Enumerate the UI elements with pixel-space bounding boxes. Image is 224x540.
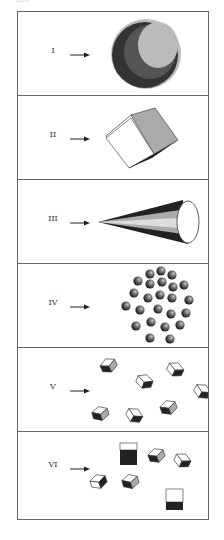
small-sphere: [167, 270, 176, 279]
small-sphere: [135, 305, 144, 314]
small-sphere: [155, 290, 164, 299]
cube: [192, 381, 208, 401]
panel-1: I: [18, 12, 208, 96]
panel-5: V: [18, 348, 208, 432]
panel-2: II: [18, 96, 208, 180]
panel-6: VI: [18, 432, 208, 521]
cube: [134, 372, 154, 391]
small-sphere: [166, 309, 175, 318]
small-sphere: [133, 276, 142, 285]
square-bottom-dark: [120, 450, 137, 465]
small-sphere: [146, 317, 155, 326]
cube: [91, 405, 110, 423]
page-number: 200: [16, 0, 29, 4]
small-sphere: [179, 280, 188, 289]
cube: [165, 360, 186, 380]
cube: [124, 405, 145, 425]
cube: [172, 451, 193, 471]
small-sphere: [145, 333, 154, 342]
small-sphere: [121, 301, 130, 310]
scattered-cubes-squares-figure: [18, 432, 208, 521]
cube: [147, 446, 167, 465]
small-sphere: [145, 279, 154, 288]
square-top-white: [120, 443, 137, 450]
small-sphere: [153, 304, 162, 313]
square-bottom-dark: [166, 502, 183, 510]
square-top-white: [166, 489, 183, 502]
small-sphere: [131, 321, 140, 330]
small-sphere: [184, 295, 193, 304]
small-sphere: [160, 322, 169, 331]
small-sphere: [129, 288, 138, 297]
cube: [98, 356, 119, 376]
cube: [89, 472, 109, 491]
figure-frame: I II III IV: [17, 11, 209, 520]
panel-3: III: [18, 180, 208, 264]
panel-4: IV: [18, 264, 208, 348]
small-sphere: [175, 320, 184, 329]
cube: [121, 473, 140, 491]
sphere-cluster-figure: [18, 264, 208, 348]
cube: [159, 398, 179, 417]
small-sphere: [157, 277, 166, 286]
small-sphere: [181, 308, 190, 317]
sphere-figure: [18, 12, 208, 96]
cube-figure: [18, 96, 208, 180]
small-sphere: [168, 282, 177, 291]
small-sphere: [165, 334, 174, 343]
scattered-cubes-figure: [18, 348, 208, 432]
small-sphere: [156, 266, 165, 275]
small-sphere: [143, 293, 152, 302]
small-sphere: [167, 293, 176, 302]
small-sphere: [145, 269, 154, 278]
cone-figure: [18, 180, 208, 264]
